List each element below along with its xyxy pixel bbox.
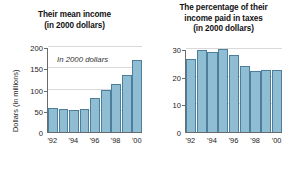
bar — [48, 108, 58, 132]
y-tick-mark — [44, 48, 48, 49]
y-tick-label: 200 — [21, 44, 43, 53]
bar — [132, 60, 142, 132]
chart-title-left: Their mean income (in 2000 dollars) — [0, 10, 149, 31]
bar-series-left — [48, 48, 142, 132]
x-tick-label: '94 — [69, 136, 79, 145]
bar — [261, 70, 271, 132]
bar — [101, 90, 111, 132]
bar — [218, 49, 228, 132]
bar — [122, 75, 132, 132]
bar — [250, 71, 260, 132]
x-tick-label: '92 — [47, 136, 57, 145]
y-tick-label: 50 — [21, 107, 43, 116]
chart-title-left-line1: Their mean income — [0, 10, 149, 21]
plot-area-left — [47, 48, 142, 133]
bar-chart-figure: Their mean income (in 2000 dollars) Doll… — [0, 0, 298, 169]
plot-area-right — [185, 50, 282, 133]
y-tick-mark — [182, 105, 186, 106]
bar — [207, 52, 217, 132]
chart-title-right-line3: (in 2000 dollars) — [149, 24, 298, 35]
gridline — [186, 48, 282, 49]
x-tick-label: '96 — [229, 136, 239, 145]
bar — [59, 109, 69, 132]
y-tick-label: 30 — [165, 46, 181, 55]
y-tick-mark — [44, 91, 48, 92]
y-tick-label: 0 — [165, 129, 181, 138]
chart-panel-tax-percentage: The percentage of their income paid in t… — [149, 0, 298, 169]
bar — [240, 66, 250, 132]
chart-title-right-line2: income paid in taxes — [149, 14, 298, 25]
bar — [69, 110, 79, 132]
chart-title-left-line2: (in 2000 dollars) — [0, 21, 149, 32]
bar — [80, 109, 90, 132]
x-tick-label: '00 — [132, 136, 142, 145]
y-tick-label: 0 — [21, 129, 43, 138]
chart-panel-mean-income: Their mean income (in 2000 dollars) Doll… — [0, 0, 149, 169]
y-tick-label: 20 — [165, 73, 181, 82]
gridline — [48, 46, 142, 47]
bar — [272, 70, 282, 132]
bar — [186, 59, 196, 132]
y-tick-mark — [44, 69, 48, 70]
y-tick-mark — [182, 50, 186, 51]
chart-title-right: The percentage of their income paid in t… — [149, 3, 298, 35]
x-tick-label: '96 — [90, 136, 100, 145]
x-tick-label: '94 — [207, 136, 217, 145]
chart-title-right-line1: The percentage of their — [149, 3, 298, 14]
x-tick-label: '98 — [111, 136, 121, 145]
bar — [197, 50, 207, 132]
y-tick-label: 150 — [21, 65, 43, 74]
bar-series-right — [186, 50, 282, 132]
bar — [90, 98, 100, 132]
y-tick-label: 100 — [21, 86, 43, 95]
y-tick-label: 10 — [165, 101, 181, 110]
bar — [229, 55, 239, 132]
x-tick-label: '92 — [186, 136, 196, 145]
bar — [111, 84, 121, 132]
y-tick-mark — [182, 78, 186, 79]
x-tick-label: '00 — [272, 136, 282, 145]
x-tick-label: '98 — [250, 136, 260, 145]
y-axis-label-left: Dollars (in millions) — [11, 70, 20, 132]
y-tick-mark — [44, 112, 48, 113]
